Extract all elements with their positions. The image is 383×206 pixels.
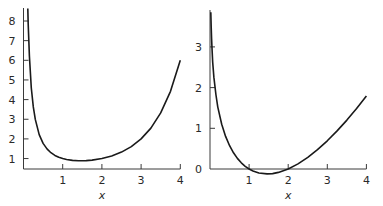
y-tick-label: 1 — [195, 122, 202, 135]
data-curve — [28, 9, 181, 161]
left-panel-gamma: 123412345678x — [9, 8, 184, 202]
x-tick-label: 1 — [59, 174, 66, 187]
x-tick-label: 4 — [363, 174, 370, 187]
x-axis-label: x — [284, 189, 292, 202]
y-tick-label: 6 — [9, 54, 16, 67]
chart-figure: 123412345678x 12340123x — [0, 0, 383, 206]
x-axis-label: x — [98, 189, 106, 202]
x-tick-label: 4 — [177, 174, 184, 187]
y-tick-label: 4 — [9, 94, 16, 107]
x-tick-label: 2 — [98, 174, 105, 187]
y-tick-label: 7 — [9, 35, 16, 48]
y-tick-label: 5 — [9, 74, 16, 87]
y-tick-label: 1 — [9, 153, 16, 166]
x-tick-label: 3 — [138, 174, 145, 187]
y-tick-label: 3 — [9, 113, 16, 126]
y-tick-label: 8 — [9, 15, 16, 28]
x-tick-label: 3 — [324, 174, 331, 187]
x-tick-label: 1 — [246, 174, 253, 187]
y-tick-label: 3 — [195, 41, 202, 54]
y-tick-label: 2 — [9, 133, 16, 146]
y-tick-label: 2 — [195, 82, 202, 95]
data-curve — [211, 12, 367, 174]
y-tick-label: 0 — [195, 163, 202, 176]
right-panel-log-gamma: 12340123x — [195, 10, 370, 202]
x-tick-label: 2 — [285, 174, 292, 187]
